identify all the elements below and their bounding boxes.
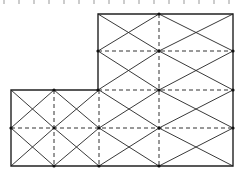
mesh-node <box>52 126 55 129</box>
mesh-node <box>97 126 100 129</box>
mesh-node <box>9 126 12 129</box>
mesh-node <box>96 49 99 52</box>
mesh-node <box>52 164 55 167</box>
mesh-node <box>97 164 100 167</box>
mesh-node <box>231 88 234 91</box>
mesh-node <box>231 126 234 129</box>
mesh-node <box>52 88 55 91</box>
mesh-node <box>157 126 160 129</box>
mesh-node <box>157 49 160 52</box>
mesh-node <box>231 49 234 52</box>
mesh-node <box>157 88 160 91</box>
mesh-node <box>96 88 99 91</box>
mesh-diagram <box>0 0 236 177</box>
mesh-node <box>157 164 160 167</box>
mesh-node <box>157 12 160 15</box>
top-tick-marks <box>4 0 229 4</box>
